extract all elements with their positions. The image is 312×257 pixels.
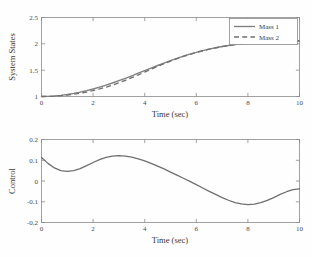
bottom-ytick-1: -0.1: [27, 198, 39, 206]
top-xtick-1: 2: [91, 99, 95, 107]
panel-control: 0 2 4 6 8 10 -0.2 -0.1 0 0.1 0.2 Time (s…: [7, 136, 304, 245]
bottom-plot-frame: [42, 140, 300, 223]
curve-control: [42, 156, 300, 205]
top-x-ticklabels: 0 2 4 6 8 10: [40, 99, 304, 107]
bottom-xaxis-label: Time (sec): [152, 235, 188, 245]
legend-label-mass-2: Mass 2: [259, 34, 280, 42]
top-y-ticklabels: 1 1.5 2 2.5: [29, 14, 38, 101]
top-xtick-4: 8: [246, 99, 250, 107]
top-xtick-0: 0: [40, 99, 44, 107]
top-xaxis-label: Time (sec): [152, 109, 188, 119]
bottom-xtick-5: 10: [296, 225, 304, 233]
top-ytick-3: 2.5: [29, 14, 38, 22]
figure-container: 0 2 4 6 8 10 1 1.5 2 2.5 Time (sec) Syst…: [0, 0, 312, 257]
top-ytick-1: 1.5: [29, 67, 38, 75]
curve-mass-2: [42, 41, 300, 97]
bottom-xtick-1: 2: [91, 225, 95, 233]
legend: Mass 1 Mass 2: [230, 19, 298, 45]
bottom-ytick-0: -0.2: [27, 219, 39, 227]
bottom-y-ticks: [42, 140, 300, 223]
bottom-ytick-3: 0.1: [29, 157, 38, 165]
bottom-xtick-2: 4: [143, 225, 147, 233]
bottom-yaxis-label: Control: [7, 167, 17, 194]
bottom-xtick-0: 0: [40, 225, 44, 233]
top-xtick-2: 4: [143, 99, 147, 107]
top-xtick-3: 6: [195, 99, 199, 107]
bottom-xtick-4: 8: [246, 225, 250, 233]
top-xtick-5: 10: [296, 99, 304, 107]
legend-label-mass-1: Mass 1: [259, 23, 280, 31]
bottom-ytick-4: 0.2: [29, 136, 38, 144]
bottom-xtick-3: 6: [195, 225, 199, 233]
bottom-x-ticks: [42, 140, 300, 223]
panel-system-states: 0 2 4 6 8 10 1 1.5 2 2.5 Time (sec) Syst…: [7, 14, 304, 119]
curve-mass-1: [42, 41, 300, 96]
top-ytick-0: 1: [35, 93, 39, 101]
bottom-y-ticklabels: -0.2 -0.1 0 0.1 0.2: [27, 136, 39, 227]
top-ytick-2: 2: [35, 40, 39, 48]
matlab-figure-svg: 0 2 4 6 8 10 1 1.5 2 2.5 Time (sec) Syst…: [0, 0, 312, 257]
top-yaxis-label: System States: [7, 33, 17, 80]
bottom-x-ticklabels: 0 2 4 6 8 10: [40, 225, 304, 233]
bottom-ytick-2: 0: [35, 178, 39, 186]
